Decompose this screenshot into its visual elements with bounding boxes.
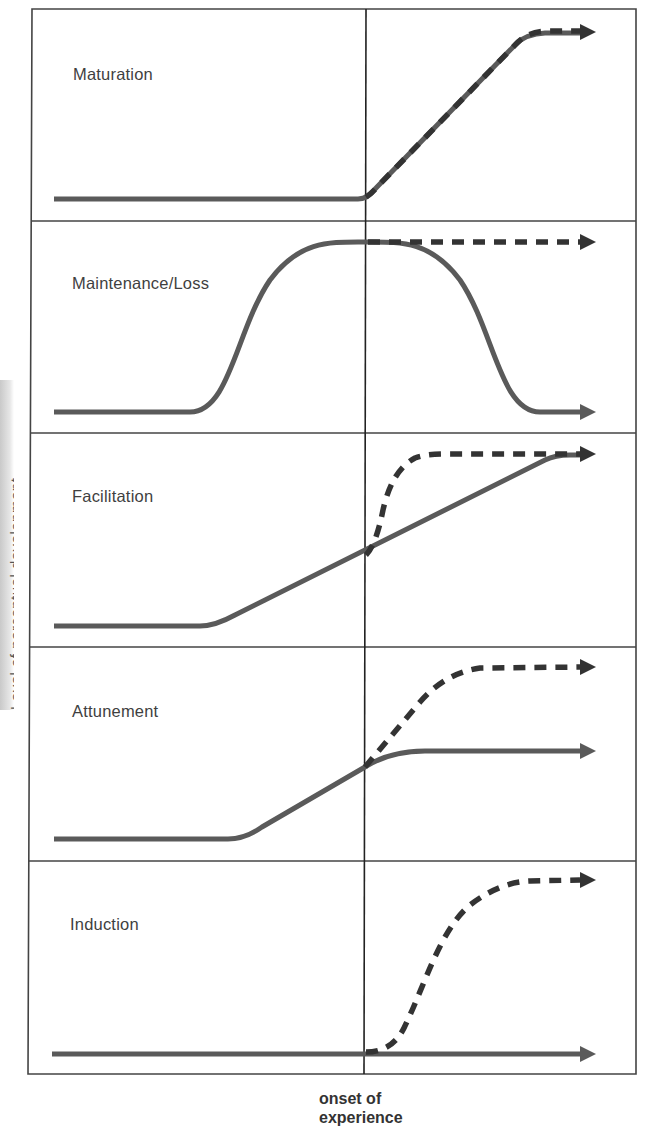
maintenance-loss-solid-arrowhead-icon	[580, 404, 596, 420]
panel-attunement-curves	[54, 659, 596, 839]
diagram-canvas	[0, 0, 647, 1133]
induction-solid-arrowhead-icon	[580, 1046, 596, 1062]
figure: Level of perceptual development	[0, 0, 647, 1133]
maintenance-loss-dashed-arrowhead-icon	[580, 234, 596, 250]
panel-maintenance-loss-curves	[54, 234, 596, 420]
attunement-solid-arrowhead-icon	[580, 743, 596, 759]
onset-of-experience-line	[364, 9, 366, 1074]
panel-facilitation-curves	[54, 446, 596, 626]
panel-label-induction: Induction	[70, 915, 139, 934]
panel-label-maturation: Maturation	[73, 65, 153, 84]
facilitation-solid-curve	[54, 455, 583, 626]
panel-label-facilitation: Facilitation	[72, 487, 153, 506]
facilitation-dashed-curve	[366, 454, 580, 555]
maturation-arrowhead-icon	[580, 24, 596, 40]
attunement-solid-curve	[54, 751, 583, 839]
panel-maturation-curves	[54, 24, 596, 199]
induction-dashed-arrowhead-icon	[580, 872, 596, 888]
panel-label-maintenance-loss: Maintenance/Loss	[72, 274, 209, 293]
facilitation-arrowhead-icon	[580, 446, 596, 462]
attunement-dashed-arrowhead-icon	[580, 659, 596, 675]
maintenance-loss-solid-curve	[54, 242, 583, 412]
induction-dashed-curve	[366, 880, 580, 1052]
panel-label-attunement: Attunement	[72, 702, 158, 721]
onset-of-experience-label: onset of experience	[319, 1089, 403, 1127]
panel-induction-curves	[52, 872, 596, 1062]
maturation-dashed-curve	[366, 31, 583, 197]
